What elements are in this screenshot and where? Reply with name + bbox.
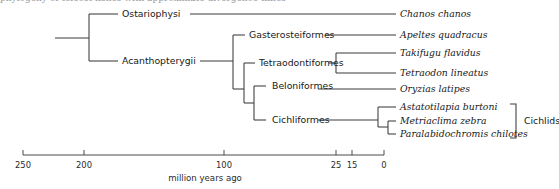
tip-label-metriaclima-zebra: Metriaclima zebra: [399, 115, 487, 126]
axis-tick-label-25: 25: [331, 160, 342, 170]
clade-label-ostariophysi: Ostariophysi: [122, 8, 180, 19]
tip-label-apeltes-quadracus: Apeltes quadracus: [399, 29, 488, 40]
tip-label-oryzias-latipes: Oryzias latipes: [400, 83, 470, 94]
group-label-cichlids: Cichlids: [524, 115, 559, 126]
tip-label-tetraodon-lineatus: Tetraodon lineatus: [400, 67, 488, 78]
tip-label-astatotilapia-burtoni: Astatotilapia burtoni: [399, 101, 497, 112]
axis-tick-label-250: 250: [15, 160, 31, 170]
axis-tick-label-15: 15: [347, 160, 358, 170]
clade-label-beloniformes: Beloniformes: [272, 80, 333, 91]
axis-title-time: million years ago: [168, 173, 242, 183]
tree-canvas: Ostariophysi Acanthopterygii Gasterostei…: [0, 0, 559, 189]
clade-label-acanthopterygii: Acanthopterygii: [122, 55, 196, 66]
tip-label-paralabidochromis-chilotes: Paralabidochromis chilotes: [399, 128, 528, 139]
axis-tick-label-200: 200: [76, 160, 92, 170]
clade-label-tetraodontiformes: Tetraodontiformes: [258, 57, 344, 68]
clade-label-cichliformes: Cichliformes: [272, 114, 330, 125]
axis-tick-label-100: 100: [216, 160, 232, 170]
tip-label-chanos-chanos: Chanos chanos: [400, 8, 471, 19]
phylogenetic-tree-figure: phylogeny of teleost fishes with approxi…: [0, 0, 559, 189]
tip-label-takifugu-flavidus: Takifugu flavidus: [400, 47, 481, 58]
axis-tick-label-0: 0: [381, 160, 386, 170]
clade-label-gasterosteiformes: Gasterosteiformes: [249, 29, 335, 40]
